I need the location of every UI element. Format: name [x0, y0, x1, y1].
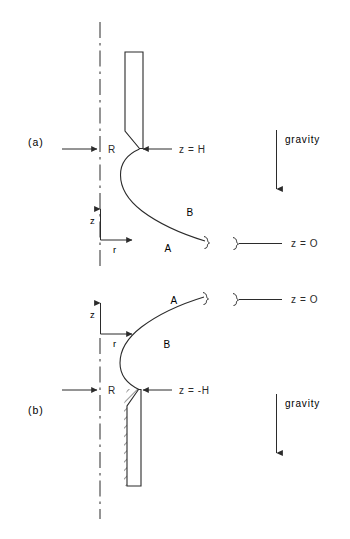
- panel-b-coordinate-axes: z r: [90, 303, 132, 349]
- panel-b-region-a-label: A: [170, 295, 177, 306]
- panel-a-gravity-label: gravity: [285, 134, 320, 145]
- panel-b: R z = -H z r A B z = O: [28, 293, 320, 520]
- panel-b-datum-break-squiggle: [233, 294, 239, 306]
- panel-a-r-axis-label: r: [113, 244, 117, 255]
- panel-a-interface-level-label: z = H: [179, 144, 206, 155]
- panel-b-identifier: (b): [28, 404, 44, 416]
- panel-a-region-a-label: A: [164, 243, 171, 254]
- panel-a-datum-level-label: z = O: [291, 238, 318, 249]
- panel-b-datum-level-label: z = O: [291, 294, 318, 305]
- panel-b-nozzle-outline: [127, 390, 141, 487]
- panel-b-region-b-label: B: [163, 339, 170, 350]
- panel-a-identifier: (a): [28, 136, 44, 148]
- panel-a-coordinate-axes: z r: [90, 209, 132, 255]
- panel-b-radius-label: R: [108, 385, 116, 396]
- panel-a-datum-break-squiggle: [233, 238, 239, 250]
- panel-a-gravity-indicator: gravity: [277, 130, 321, 189]
- panel-a: R z = H z r B A z = O g: [28, 22, 320, 266]
- figure-container: R z = H z r B A z = O g: [0, 0, 350, 539]
- panel-b-datum-level: z = O: [233, 294, 318, 306]
- panel-a-nozzle-outline: [125, 52, 143, 149]
- panel-a-curve-break-squiggle: [204, 237, 210, 249]
- panel-a-radius-label: R: [108, 144, 116, 155]
- panel-b-z-axis-label: z: [90, 309, 95, 320]
- panel-b-interface-level-label: z = -H: [179, 385, 210, 396]
- meniscus-diagram-svg: R z = H z r B A z = O g: [0, 0, 350, 539]
- panel-b-gravity-indicator: gravity: [277, 394, 321, 453]
- panel-b-curve-break-squiggle: [203, 293, 209, 305]
- panel-a-nozzle-wall: [118, 45, 150, 155]
- panel-b-gravity-label: gravity: [285, 398, 320, 409]
- panel-a-meniscus-curve: [121, 149, 206, 241]
- panel-b-r-axis-label: r: [113, 338, 117, 349]
- panel-a-region-b-label: B: [186, 207, 193, 218]
- panel-b-nozzle-wall: [118, 385, 148, 490]
- panel-a-datum-level: z = O: [233, 238, 318, 250]
- panel-a-z-axis-label: z: [90, 215, 95, 226]
- panel-b-meniscus-curve: [120, 297, 204, 390]
